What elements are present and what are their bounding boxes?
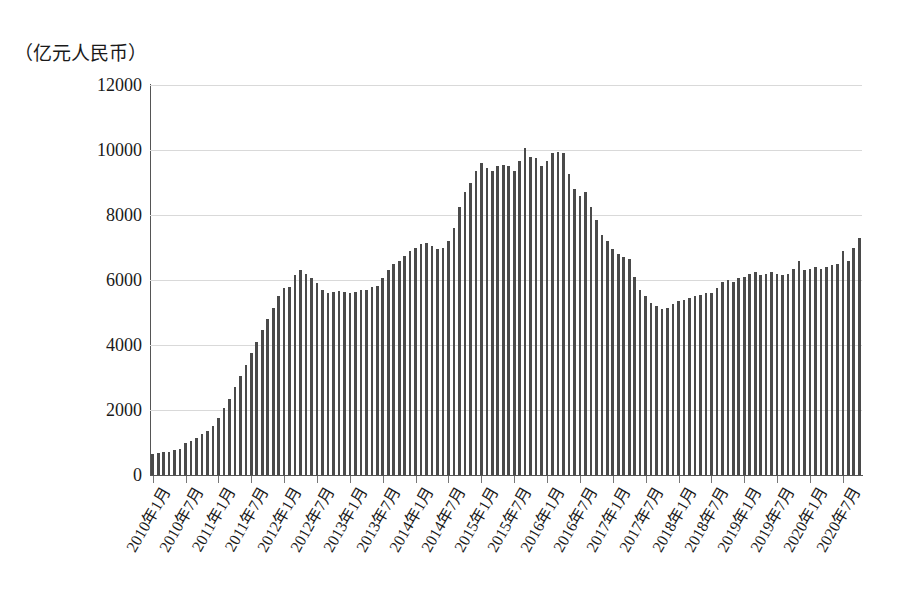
x-tick-mark [186, 476, 187, 483]
bar [655, 306, 658, 475]
bar [360, 290, 363, 475]
bar [727, 280, 730, 475]
bar [157, 453, 160, 475]
bar [343, 292, 346, 475]
bar [310, 278, 313, 475]
bar [694, 296, 697, 475]
bar [803, 270, 806, 475]
bar [518, 161, 521, 475]
bar [628, 259, 631, 475]
x-tick-mark [350, 476, 351, 483]
bar [590, 207, 593, 475]
bar [354, 292, 357, 475]
bar [217, 418, 220, 475]
bar [371, 287, 374, 475]
bar [305, 274, 308, 476]
bar [496, 166, 499, 475]
bar [677, 301, 680, 475]
bar [316, 283, 319, 475]
bar [464, 192, 467, 475]
bar [748, 274, 751, 476]
bar [732, 282, 735, 475]
bar [381, 278, 384, 475]
bar [162, 452, 165, 475]
bar [820, 269, 823, 475]
y-tick-label: 10000 [62, 141, 142, 159]
bar [606, 241, 609, 475]
bar [436, 249, 439, 475]
bar [327, 293, 330, 475]
x-tick-mark [251, 476, 252, 483]
bar [540, 166, 543, 475]
bar [223, 408, 226, 475]
bar [299, 270, 302, 475]
bar [480, 163, 483, 475]
y-tick-label: 12000 [62, 76, 142, 94]
bar [409, 251, 412, 475]
bar [387, 270, 390, 475]
bar [288, 287, 291, 476]
bar [721, 282, 724, 475]
x-axis-tick-labels: 2010年1月2010年7月2011年1月2011年7月2012年1月2012年… [150, 484, 910, 609]
bar [228, 399, 231, 475]
x-tick-mark [744, 476, 745, 483]
bar [666, 308, 669, 475]
bar [705, 293, 708, 475]
x-tick-mark [448, 476, 449, 483]
bar [420, 244, 423, 475]
bar [458, 207, 461, 475]
bar [688, 298, 691, 475]
bar [266, 319, 269, 475]
x-tick-mark [514, 476, 515, 483]
bar [365, 290, 368, 475]
chart-figure: （亿元人民币） 120001000080006000400020000 2010… [0, 0, 920, 613]
bar [513, 171, 516, 475]
plot-area [150, 85, 862, 475]
bar [611, 249, 614, 475]
bar [672, 304, 675, 475]
x-tick-mark [777, 476, 778, 483]
x-tick-mark [383, 476, 384, 483]
bar [568, 174, 571, 475]
x-tick-mark [646, 476, 647, 483]
bar [425, 243, 428, 475]
bar [792, 269, 795, 475]
bar [486, 168, 489, 475]
bar [639, 290, 642, 475]
bar [294, 275, 297, 475]
x-tick-mark [613, 476, 614, 483]
bar [650, 303, 653, 475]
bar [529, 157, 532, 476]
bar [168, 452, 171, 475]
x-tick-mark [317, 476, 318, 483]
bar [831, 265, 834, 475]
y-tick-label: 6000 [62, 271, 142, 289]
bar [770, 272, 773, 475]
bar [502, 165, 505, 475]
bar [535, 158, 538, 475]
bar [447, 241, 450, 475]
bar [798, 261, 801, 476]
bar [781, 275, 784, 475]
bar [759, 275, 762, 475]
bar [321, 290, 324, 475]
bar [332, 292, 335, 475]
bar [431, 246, 434, 475]
bar [206, 431, 209, 475]
bar [842, 251, 845, 475]
bar [245, 365, 248, 476]
y-tick-label: 2000 [62, 401, 142, 419]
bar [743, 277, 746, 475]
bar [858, 238, 861, 475]
bar [737, 278, 740, 475]
bar [234, 387, 237, 475]
bar [644, 296, 647, 475]
x-tick-mark [580, 476, 581, 483]
bar [852, 248, 855, 476]
bar [349, 293, 352, 475]
bar [562, 153, 565, 475]
bar [398, 261, 401, 476]
x-tick-mark [218, 476, 219, 483]
x-tick-mark [679, 476, 680, 483]
bar [453, 228, 456, 475]
